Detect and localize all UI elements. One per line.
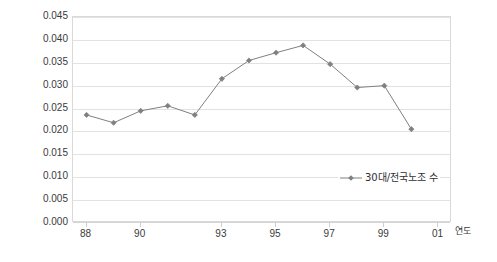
x-axis-tick-label: 97 bbox=[324, 228, 335, 239]
x-axis-tick-label: 99 bbox=[378, 228, 389, 239]
x-axis-tick-label: 95 bbox=[269, 228, 280, 239]
x-axis-tick-mark bbox=[86, 222, 87, 227]
x-axis-tick-mark bbox=[383, 222, 384, 227]
x-axis-tick-mark bbox=[140, 222, 141, 227]
x-axis-tick-label: 01 bbox=[432, 228, 443, 239]
x-axis-tick-mark bbox=[329, 222, 330, 227]
x-axis-tick-label: 93 bbox=[215, 228, 226, 239]
x-axis-tick-mark bbox=[437, 222, 438, 227]
legend-marker-icon bbox=[340, 173, 362, 183]
x-axis-tick-label: 88 bbox=[80, 228, 91, 239]
legend-item-label: 30대/전국노조 수 bbox=[365, 172, 438, 183]
chart-container: 0.0000.0050.0100.0150.0200.0250.0300.035… bbox=[0, 0, 497, 262]
x-axis-title: 연도 bbox=[455, 226, 471, 237]
x-axis-tick-mark bbox=[275, 222, 276, 227]
x-axis-tick-mark bbox=[221, 222, 222, 227]
chart-legend: 30대/전국노조 수 bbox=[338, 171, 440, 184]
x-axis: 88909395979901 bbox=[0, 0, 497, 262]
x-axis-tick-label: 90 bbox=[134, 228, 145, 239]
